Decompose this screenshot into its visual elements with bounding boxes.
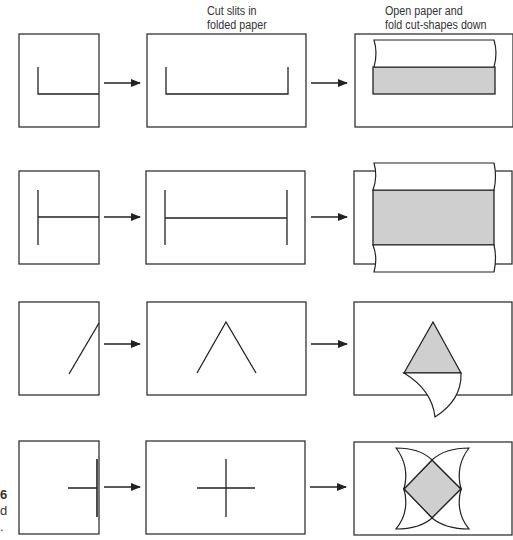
shaded-opening — [373, 190, 494, 245]
folded-paper-1 — [19, 34, 99, 127]
cut-paper-3 — [147, 302, 306, 395]
folded-paper-3 — [19, 302, 99, 395]
folded-flap-bottom — [373, 245, 496, 272]
row-1 — [19, 34, 513, 127]
row-3 — [19, 302, 512, 417]
cut-paper-1 — [147, 34, 306, 127]
folded-flap — [374, 40, 496, 67]
row-2 — [19, 163, 512, 272]
shaded-opening — [373, 67, 495, 94]
row-4 — [19, 441, 512, 535]
paper-cutting-diagram — [0, 0, 513, 540]
folded-flap-top — [373, 163, 496, 190]
